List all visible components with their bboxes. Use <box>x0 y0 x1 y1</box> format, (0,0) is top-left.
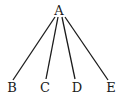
node-c: C <box>40 80 50 95</box>
node-b: B <box>7 80 17 95</box>
node-e: E <box>106 80 116 95</box>
nodes: A B C D E <box>7 3 116 95</box>
edge-a-d <box>62 17 75 79</box>
node-root-a: A <box>53 3 64 18</box>
node-d: D <box>72 80 82 95</box>
edges <box>13 17 108 80</box>
tree-diagram: A B C D E <box>0 0 120 97</box>
edge-a-e <box>65 17 108 80</box>
edge-a-b <box>13 17 55 80</box>
edge-a-c <box>46 17 58 79</box>
